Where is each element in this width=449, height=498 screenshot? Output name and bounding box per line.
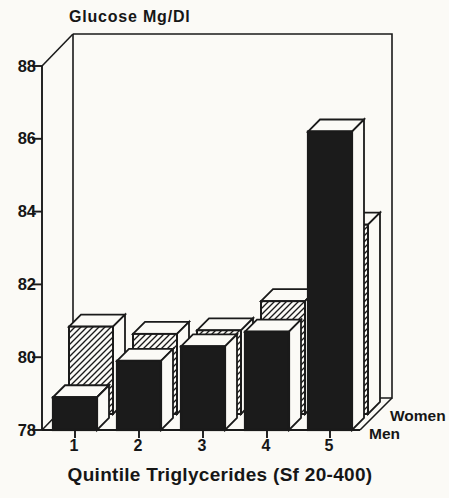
y-tick-label-80: 80 [2, 348, 36, 367]
y-tick-label-78: 78 [2, 421, 36, 440]
x-tick-label-2: 2 [127, 437, 149, 455]
glucose-triglycerides-3d-bar-chart: Glucose Mg/Dl 788082848688 12345 Women M… [0, 0, 449, 498]
x-tick-label-5: 5 [318, 437, 340, 455]
x-tick-label-1: 1 [63, 437, 85, 455]
chart-title: Glucose Mg/Dl [69, 8, 191, 26]
x-tick-label-3: 3 [191, 437, 213, 455]
x-axis-title: Quintile Triglycerides (Sf 20-400) [50, 464, 390, 486]
legend-label-women: Women [390, 407, 446, 425]
y-tick-label-86: 86 [2, 129, 36, 148]
y-tick-label-88: 88 [2, 57, 36, 76]
chart-canvas [0, 0, 449, 498]
legend-label-men: Men [369, 425, 400, 443]
x-tick-label-4: 4 [255, 437, 277, 455]
y-tick-label-82: 82 [2, 275, 36, 294]
y-tick-label-84: 84 [2, 202, 36, 221]
